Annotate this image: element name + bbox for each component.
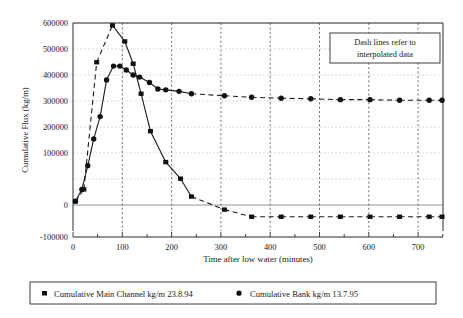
data-point-bank[interactable] [439, 98, 444, 103]
y-tick-label: 400000 [43, 71, 68, 80]
data-point-bank[interactable] [124, 67, 129, 72]
x-tick-label: 0 [71, 243, 75, 252]
data-point-main-channel[interactable] [279, 215, 284, 219]
data-point-bank[interactable] [147, 80, 152, 85]
data-point-main-channel[interactable] [397, 215, 402, 219]
data-point-bank[interactable] [79, 187, 84, 192]
x-tick-label: 700 [412, 243, 425, 252]
data-point-bank[interactable] [91, 136, 96, 141]
x-tick-label: 200 [165, 243, 178, 252]
data-point-bank[interactable] [367, 97, 372, 102]
data-point-bank[interactable] [397, 98, 402, 103]
data-point-bank[interactable] [85, 163, 90, 168]
data-point-main-channel[interactable] [139, 92, 144, 96]
y-tick-label: -100000 [40, 233, 68, 242]
data-point-main-channel[interactable] [427, 215, 432, 219]
data-point-main-channel[interactable] [440, 215, 445, 219]
cumulative-flux-chart: 600000 500000 400000 300000 200000 10000… [0, 0, 463, 318]
data-point-main-channel[interactable] [110, 23, 115, 27]
y-tick-label: 600000 [43, 19, 68, 28]
y-tick-label: 100000 [43, 149, 68, 158]
data-point-bank[interactable] [338, 97, 343, 102]
data-point-main-channel[interactable] [131, 62, 136, 66]
data-point-bank[interactable] [155, 86, 160, 91]
data-point-bank[interactable] [222, 93, 227, 98]
legend-marker-square [42, 291, 47, 296]
annotation-line-1: Dash lines refer to [354, 38, 416, 47]
data-point-bank[interactable] [117, 63, 122, 68]
legend-label-main-channel[interactable]: Cumulative Main Channel kg/m 23.8.94 [54, 289, 194, 299]
data-point-bank[interactable] [97, 114, 102, 119]
data-point-bank[interactable] [163, 87, 168, 92]
annotation-dash-note: Dash lines refer to interpolated data [330, 33, 440, 63]
y-axis-title: Cumulative Flux (kg/m) [20, 87, 30, 173]
data-point-bank[interactable] [130, 72, 135, 77]
y-tick-label: 0 [64, 201, 68, 210]
data-point-bank[interactable] [278, 95, 283, 100]
data-point-main-channel[interactable] [163, 160, 168, 164]
legend-label-bank[interactable]: Cumulative Bank kg/m 13.7.95 [250, 289, 358, 299]
data-point-main-channel[interactable] [189, 194, 194, 198]
data-point-main-channel[interactable] [367, 215, 372, 219]
data-point-main-channel[interactable] [338, 215, 343, 219]
data-point-main-channel[interactable] [178, 177, 183, 181]
x-tick-label: 400 [264, 243, 277, 252]
x-tick-label: 300 [215, 243, 228, 252]
x-tick-label: 500 [313, 243, 326, 252]
y-tick-label: 500000 [43, 45, 68, 54]
y-tick-label: 300000 [43, 97, 68, 106]
data-point-bank[interactable] [249, 95, 254, 100]
data-point-bank[interactable] [308, 96, 313, 101]
data-point-main-channel[interactable] [308, 215, 313, 219]
data-point-main-channel[interactable] [94, 60, 99, 64]
y-tick-label: 200000 [43, 123, 68, 132]
chart-legend: Cumulative Main Channel kg/m 23.8.94 Cum… [30, 282, 436, 304]
data-point-main-channel[interactable] [249, 215, 254, 219]
chart-figure: 600000 500000 400000 300000 200000 10000… [0, 0, 463, 318]
x-tick-label: 100 [116, 243, 129, 252]
data-point-bank[interactable] [104, 77, 109, 82]
data-point-bank[interactable] [189, 91, 194, 96]
x-tick-label: 600 [363, 243, 376, 252]
data-point-main-channel[interactable] [222, 207, 227, 211]
data-point-main-channel[interactable] [122, 39, 127, 43]
x-axis-title: Time after low water (minutes) [203, 254, 313, 264]
data-point-bank[interactable] [73, 199, 78, 204]
data-point-bank[interactable] [426, 98, 431, 103]
legend-marker-circle [236, 291, 241, 296]
data-point-bank[interactable] [111, 63, 116, 68]
data-point-bank[interactable] [137, 74, 142, 79]
annotation-line-2: interpolated data [357, 50, 413, 59]
data-point-bank[interactable] [176, 89, 181, 94]
data-point-main-channel[interactable] [148, 129, 153, 133]
